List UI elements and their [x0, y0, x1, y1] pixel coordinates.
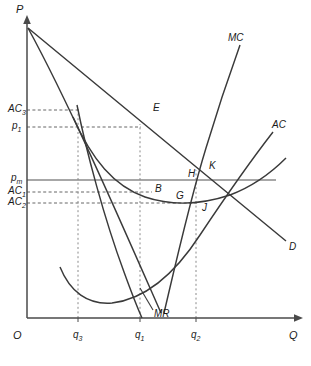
average-cost-curve-upper	[77, 105, 142, 318]
point-label-k: K	[209, 161, 216, 171]
curve-label-d: D	[289, 242, 296, 252]
economics-diagram: AC3 p1 pm AC1 AC2 q3 q1 q2 P Q O MC AC D…	[0, 0, 311, 366]
y-axis-label: P	[16, 4, 23, 15]
curve-label-mr: MR	[154, 309, 170, 319]
marginal-revenue-curve	[28, 28, 161, 313]
x-tick-label-q3: q3	[73, 330, 82, 342]
point-label-e: E	[153, 103, 160, 113]
y-tick-label-AC3: AC3	[8, 104, 26, 116]
x-axis-label: Q	[289, 330, 298, 341]
y-tick-label-pm: pm	[11, 173, 22, 185]
y-tick-label-p1: p1	[12, 121, 21, 133]
point-label-j: J	[202, 203, 207, 213]
point-label-g: G	[176, 191, 184, 201]
curve-label-mc: MC	[228, 33, 244, 43]
x-axis-arrow	[294, 314, 303, 322]
x-tick-label-q2: q2	[191, 330, 200, 342]
curve-label-ac: AC	[272, 120, 286, 130]
point-label-b: B	[155, 184, 162, 194]
demand-curve	[28, 28, 286, 241]
reference-lines	[27, 108, 276, 318]
origin-label: O	[13, 330, 22, 341]
y-axis-arrow	[23, 15, 31, 24]
axes	[23, 15, 303, 322]
y-tick-label-AC2: AC2	[8, 197, 26, 209]
point-label-h: H	[188, 169, 195, 179]
x-tick-label-q1: q1	[135, 330, 144, 342]
marginal-cost-curve	[164, 45, 240, 313]
curves	[28, 28, 286, 318]
